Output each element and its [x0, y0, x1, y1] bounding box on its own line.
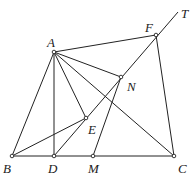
segment-AF [54, 35, 156, 52]
label-N: N [126, 79, 137, 94]
segment-AC [54, 52, 174, 156]
label-F: F [144, 20, 154, 35]
label-E: E [87, 122, 96, 137]
label-M: M [87, 161, 100, 176]
label-D: D [47, 161, 58, 176]
label-A: A [46, 35, 55, 50]
point-A [52, 50, 56, 54]
geometry-diagram: ABDMCFNET [0, 0, 192, 186]
point-F [154, 33, 158, 37]
label-C: C [178, 161, 187, 176]
point-N [119, 75, 123, 79]
point-M [91, 154, 95, 158]
point-E [84, 116, 88, 120]
point-D [52, 154, 56, 158]
label-T: T [181, 6, 189, 21]
segment-FC [156, 35, 174, 156]
label-B: B [3, 161, 11, 176]
segment-BE [12, 118, 86, 156]
point-C [172, 154, 176, 158]
segment-AB [12, 52, 54, 156]
points [10, 33, 176, 158]
point-B [10, 154, 14, 158]
segment-DT [54, 12, 178, 156]
